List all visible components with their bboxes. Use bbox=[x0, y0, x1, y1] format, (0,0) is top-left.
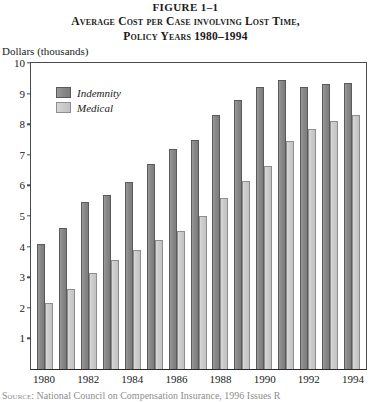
legend-item: Medical bbox=[56, 101, 121, 114]
bar-medical-1987 bbox=[199, 216, 207, 369]
bar-medical-1981 bbox=[67, 289, 75, 369]
bar-indemnity-1980 bbox=[37, 244, 45, 369]
bar-group bbox=[319, 63, 341, 369]
y-tick-label: 3 bbox=[1, 272, 25, 283]
bar-group bbox=[231, 63, 253, 369]
source-note: Source: National Council on Compensation… bbox=[2, 390, 371, 401]
bar-medical-1991 bbox=[286, 141, 294, 369]
x-tick-label: 1980 bbox=[33, 371, 55, 387]
legend-item: Indemnity bbox=[56, 86, 121, 99]
bar-medical-1982 bbox=[89, 273, 97, 369]
figure-title-line2: Policy Years 1980–1994 bbox=[0, 30, 371, 42]
bar-indemnity-1983 bbox=[103, 195, 111, 369]
bar-indemnity-1981 bbox=[59, 228, 67, 369]
x-tick-label: 1994 bbox=[342, 371, 364, 387]
y-tick-label: 4 bbox=[1, 241, 25, 252]
bar-medical-1993 bbox=[330, 121, 338, 369]
legend-swatch-indemnity bbox=[56, 87, 71, 98]
bar-indemnity-1991 bbox=[278, 80, 286, 369]
chart-legend: IndemnityMedical bbox=[56, 86, 121, 114]
bar-indemnity-1987 bbox=[191, 140, 199, 370]
bar-group bbox=[341, 63, 363, 369]
bar-indemnity-1986 bbox=[169, 149, 177, 369]
bar-indemnity-1990 bbox=[256, 87, 264, 369]
bar-group bbox=[275, 63, 297, 369]
bar-indemnity-1994 bbox=[344, 83, 352, 369]
x-axis-labels: 1980.1982.1984.1986.1988.1990.1992.1994 bbox=[30, 371, 367, 387]
y-tick-label: 9 bbox=[1, 88, 25, 99]
x-tick-label: 1982 bbox=[77, 371, 99, 387]
x-tick-label: 1986 bbox=[165, 371, 187, 387]
x-tick-label: 1988 bbox=[210, 371, 232, 387]
bar-group bbox=[210, 63, 232, 369]
y-tick-label: 7 bbox=[1, 149, 25, 160]
bar-group bbox=[144, 63, 166, 369]
bar-medical-1983 bbox=[111, 260, 119, 369]
y-tick-label: 5 bbox=[1, 211, 25, 222]
figure-title-line1: Average Cost per Case involving Lost Tim… bbox=[0, 15, 371, 27]
legend-swatch-medical bbox=[56, 102, 71, 113]
y-tick-label: 8 bbox=[1, 119, 25, 130]
legend-label-medical: Medical bbox=[77, 102, 113, 114]
y-tick-label: 10 bbox=[1, 58, 25, 69]
bar-medical-1986 bbox=[177, 231, 185, 369]
bar-medical-1992 bbox=[308, 129, 316, 369]
bar-indemnity-1992 bbox=[300, 87, 308, 369]
figure-number: FIGURE 1–1 bbox=[0, 1, 371, 13]
y-tick-label: 2 bbox=[1, 302, 25, 313]
bar-group bbox=[34, 63, 56, 369]
bar-medical-1984 bbox=[133, 250, 141, 369]
x-tick-label: 1990 bbox=[254, 371, 276, 387]
bar-indemnity-1985 bbox=[147, 164, 155, 369]
bar-group bbox=[188, 63, 210, 369]
x-tick-label: 1992 bbox=[298, 371, 320, 387]
bar-group bbox=[253, 63, 275, 369]
bar-medical-1988 bbox=[220, 198, 228, 369]
bar-group bbox=[297, 63, 319, 369]
legend-label-indemnity: Indemnity bbox=[77, 87, 121, 99]
bar-indemnity-1993 bbox=[322, 84, 330, 369]
bar-indemnity-1982 bbox=[81, 202, 89, 369]
bar-indemnity-1988 bbox=[212, 115, 220, 369]
y-tick-label: 1 bbox=[1, 333, 25, 344]
source-label: Source: bbox=[2, 390, 34, 401]
bar-indemnity-1989 bbox=[234, 100, 242, 369]
bar-indemnity-1984 bbox=[125, 182, 133, 369]
bar-medical-1989 bbox=[242, 181, 250, 369]
y-tick-label: 6 bbox=[1, 180, 25, 191]
x-tick-label: 1984 bbox=[121, 371, 143, 387]
source-text: National Council on Compensation Insuran… bbox=[37, 390, 281, 401]
y-axis-label: Dollars (thousands) bbox=[2, 45, 88, 57]
figure-container: FIGURE 1–1 Average Cost per Case involvi… bbox=[0, 0, 371, 402]
bar-group bbox=[166, 63, 188, 369]
bar-medical-1994 bbox=[352, 115, 360, 369]
bar-group bbox=[122, 63, 144, 369]
bar-medical-1985 bbox=[155, 240, 163, 369]
bar-medical-1990 bbox=[264, 166, 272, 369]
bar-medical-1980 bbox=[45, 303, 53, 369]
